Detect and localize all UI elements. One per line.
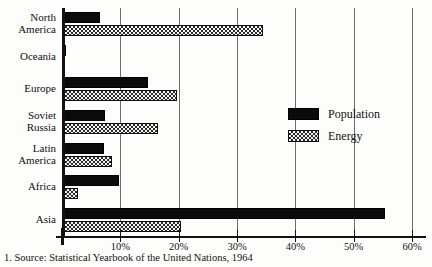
- y-axis-spine: [62, 8, 65, 236]
- gridline-30: [237, 8, 238, 236]
- gridline-10: [120, 8, 121, 236]
- bar-population-soviet-russia: [62, 110, 105, 121]
- category-label-line: America: [18, 23, 56, 35]
- x-tick-label-20: 20%: [169, 241, 188, 252]
- category-label-asia: Asia: [36, 213, 56, 225]
- legend-swatch-population-icon: [288, 108, 319, 120]
- category-label-soviet-russia: SovietRussia: [27, 109, 56, 133]
- legend-swatch-energy-icon: [288, 130, 319, 142]
- bar-energy-north-america: [62, 25, 263, 36]
- category-label-line: America: [18, 154, 56, 166]
- x-tick-label-50: 50%: [344, 241, 363, 252]
- bar-population-latin-america: [62, 143, 104, 154]
- bar-population-asia: [62, 208, 385, 219]
- bar-chart-figure: NorthAmericaOceaniaEuropeSovietRussiaLat…: [0, 0, 432, 267]
- category-label-line: Soviet: [27, 109, 56, 121]
- x-tick-label-40: 40%: [286, 241, 305, 252]
- category-label-line: Latin: [18, 142, 56, 154]
- legend-label-population: Population: [328, 107, 380, 122]
- category-label-line: Africa: [28, 180, 56, 192]
- bar-energy-asia: [62, 221, 181, 232]
- chart-legend: Population Energy: [288, 105, 380, 149]
- x-tick-label-60: 60%: [402, 241, 421, 252]
- category-label-oceania: Oceania: [20, 50, 56, 62]
- source-caption: 1. Source: Statistical Yearbook of the U…: [4, 252, 253, 263]
- gridline-60: [412, 8, 413, 236]
- x-tick-label-10: 10%: [111, 241, 130, 252]
- bar-population-africa: [62, 175, 119, 186]
- category-label-latin-america: LatinAmerica: [18, 142, 56, 166]
- category-label-europe: Europe: [24, 82, 56, 94]
- legend-item-population: Population: [288, 105, 380, 123]
- bar-population-north-america: [62, 12, 100, 23]
- category-label-line: Asia: [36, 213, 56, 225]
- legend-label-energy: Energy: [328, 129, 362, 144]
- bar-population-europe: [62, 77, 148, 88]
- legend-item-energy: Energy: [288, 127, 380, 145]
- category-label-line: Europe: [24, 82, 56, 94]
- bar-energy-europe: [62, 90, 177, 101]
- category-label-line: North: [18, 11, 56, 23]
- category-label-line: Russia: [27, 121, 56, 133]
- category-label-north-america: NorthAmerica: [18, 11, 56, 35]
- x-tick-0: [61, 228, 64, 245]
- gridline-20: [179, 8, 180, 236]
- bar-energy-latin-america: [62, 156, 112, 167]
- bar-energy-soviet-russia: [62, 123, 158, 134]
- x-axis-spine: [56, 236, 426, 238]
- category-label-africa: Africa: [28, 180, 56, 192]
- category-label-line: Oceania: [20, 50, 56, 62]
- x-tick-label-30: 30%: [227, 241, 246, 252]
